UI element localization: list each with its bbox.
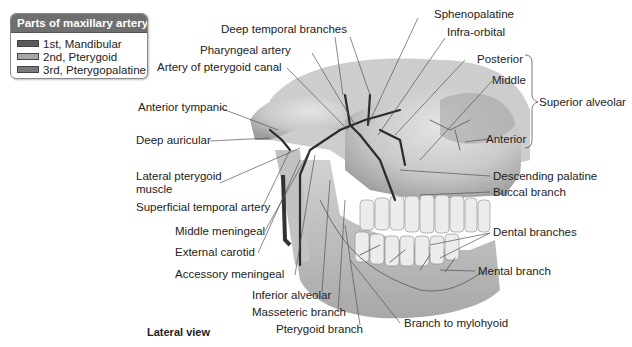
caption-lateral-view: Lateral view	[147, 326, 210, 338]
label-infra-orbital: Infra-orbital	[447, 26, 505, 39]
label-pharyngeal: Pharyngeal artery	[200, 44, 291, 57]
label-middle: Middle	[492, 74, 526, 87]
legend-label: 2nd, Pterygoid	[43, 51, 117, 63]
label-buccal: Buccal branch	[493, 186, 566, 199]
label-mental: Mental branch	[478, 265, 551, 278]
label-lateral-pterygoid-muscle: muscle	[136, 183, 172, 196]
label-pterygoid-canal: Artery of pterygoid canal	[157, 61, 282, 74]
legend-label: 3rd, Pterygopalatine	[43, 64, 146, 76]
swatch-mandibular	[17, 40, 39, 47]
label-masseteric: Masseteric branch	[252, 306, 346, 319]
label-sphenopalatine: Sphenopalatine	[434, 8, 514, 21]
label-anterior-tympanic: Anterior tympanic	[138, 101, 227, 114]
legend-item-mandibular: 1st, Mandibular	[11, 37, 147, 50]
legend-item-pterygoid: 2nd, Pterygoid	[11, 50, 147, 63]
legend-title: Parts of maxillary artery:	[11, 14, 147, 33]
label-dental: Dental branches	[493, 226, 577, 239]
label-superior-alveolar: Superior alveolar	[539, 96, 626, 109]
swatch-pterygopalatine	[17, 66, 39, 73]
swatch-pterygoid	[17, 53, 39, 60]
label-external-carotid: External carotid	[175, 246, 255, 259]
label-descending-palatine: Descending palatine	[493, 170, 597, 183]
label-posterior: Posterior	[477, 53, 523, 66]
label-deep-temporal: Deep temporal branches	[221, 23, 347, 36]
legend-label: 1st, Mandibular	[43, 38, 122, 50]
label-pterygoid-branch: Pterygoid branch	[276, 323, 363, 336]
label-lateral-pterygoid: Lateral pterygoid	[136, 170, 222, 183]
label-accessory-meningeal: Accessory meningeal	[175, 268, 284, 281]
label-mylohyoid: Branch to mylohyoid	[404, 317, 508, 330]
label-anterior: Anterior	[486, 133, 526, 146]
legend-box: Parts of maxillary artery: 1st, Mandibul…	[10, 13, 148, 79]
label-deep-auricular: Deep auricular	[136, 134, 211, 147]
label-superficial-temporal: Superficial temporal artery	[136, 201, 270, 214]
label-middle-meningeal: Middle meningeal	[175, 225, 265, 238]
label-inferior-alveolar: Inferior alveolar	[252, 289, 331, 302]
legend-item-pterygopalatine: 3rd, Pterygopalatine	[11, 63, 147, 76]
